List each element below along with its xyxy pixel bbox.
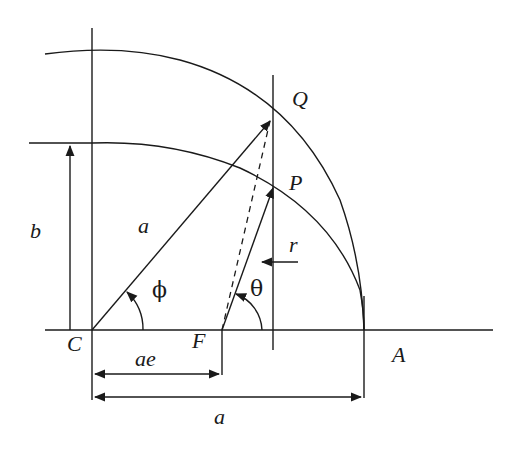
ellipse-arc [29, 143, 364, 330]
radius-vector-fp-arrow [222, 188, 273, 330]
theta-label: θ [250, 276, 263, 301]
radius-cq-arrow [92, 121, 270, 330]
auxiliary-circle-arc [45, 50, 364, 330]
focal-distance-label: ae [135, 346, 156, 371]
ellipse-anomaly-diagram: Q P b a r ϕ θ C F A ae a [0, 0, 514, 451]
semi-major-dimension-label: a [214, 404, 225, 429]
radius-a-label: a [138, 213, 149, 238]
point-f-label: F [191, 328, 206, 353]
point-q-label: Q [292, 86, 308, 111]
phi-angle-arc [127, 292, 143, 330]
semi-minor-label: b [30, 218, 41, 243]
phi-label: ϕ [152, 277, 167, 302]
point-p-label: P [288, 170, 302, 195]
point-a-label: A [390, 342, 406, 367]
radius-vector-label: r [289, 232, 298, 257]
point-c-label: C [67, 331, 82, 356]
